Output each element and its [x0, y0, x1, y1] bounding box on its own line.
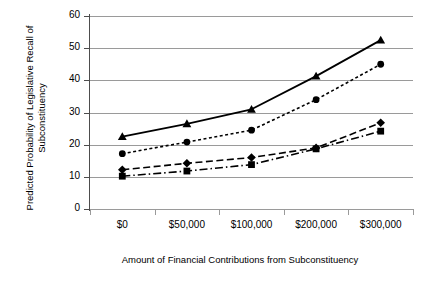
- y-tick-label: 0: [52, 202, 80, 213]
- y-tick-mark: [84, 48, 90, 49]
- x-axis-title: Amount of Financial Contributions from S…: [60, 254, 420, 265]
- x-tick-mark: [413, 209, 414, 215]
- y-tick-label: 60: [52, 9, 80, 20]
- gridline: [90, 80, 413, 81]
- x-tick-label: $100,000: [217, 219, 287, 230]
- y-tick-label: 50: [52, 41, 80, 52]
- x-tick-mark: [90, 209, 91, 215]
- gridline: [90, 16, 413, 17]
- y-tick-mark: [84, 113, 90, 114]
- y-tick-mark: [84, 80, 90, 81]
- y-tick-label: 40: [52, 73, 80, 84]
- x-tick-label: $0: [87, 219, 157, 230]
- y-tick-mark: [84, 145, 90, 146]
- y-tick-label: 20: [52, 138, 80, 149]
- gridline: [90, 48, 413, 49]
- chart-figure: Predicted Probability of Legislative Rec…: [0, 0, 427, 281]
- y-tick-mark: [84, 177, 90, 178]
- x-tick-label: $50,000: [152, 219, 222, 230]
- x-tick-label: $200,000: [281, 219, 351, 230]
- y-tick-mark: [84, 16, 90, 17]
- x-axis-line: [90, 209, 413, 210]
- x-tick-label: $300,000: [346, 219, 416, 230]
- y-tick-label: 10: [52, 170, 80, 181]
- y-tick-label: 30: [52, 106, 80, 117]
- x-tick-mark: [284, 209, 285, 215]
- x-tick-mark: [155, 209, 156, 215]
- gridline: [90, 177, 413, 178]
- gridline: [90, 113, 413, 114]
- y-axis-title: Predicted Probability of Legislative Rec…: [18, 8, 54, 228]
- plot-area: [90, 16, 413, 209]
- x-tick-mark: [219, 209, 220, 215]
- x-tick-mark: [348, 209, 349, 215]
- gridline: [90, 145, 413, 146]
